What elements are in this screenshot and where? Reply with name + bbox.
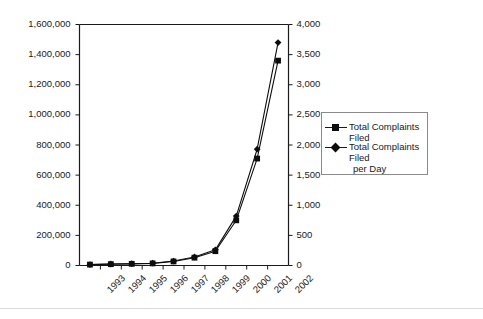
series-1 [87, 58, 281, 268]
chart-legend: Total Complaints Filed Total Complaints … [321, 112, 428, 175]
legend-square-marker-icon [325, 122, 347, 133]
legend-item-label: Total Complaints Filed [347, 121, 426, 143]
right-axis-tick-label: 3,500 [297, 49, 321, 59]
legend-item-total-complaints-filed: Total Complaints Filed [325, 121, 426, 143]
right-axis-tick-label: 1,000 [297, 200, 321, 210]
right-axis-tick-label: 0 [297, 260, 302, 270]
legend-item-label: Total Complaints Filedper Day [347, 141, 426, 174]
series-line [90, 43, 278, 265]
series-line [90, 61, 278, 265]
legend-diamond-marker-icon [325, 142, 347, 153]
right-axis-tick-label: 500 [297, 230, 313, 240]
right-axis-tick-label: 2,500 [297, 109, 321, 119]
right-axis-tick-label: 1,500 [297, 170, 321, 180]
chart-figure: 0200,000400,000600,000800,0001,000,0001,… [0, 0, 483, 319]
left-axis-tick-label: 400,000 [0, 200, 71, 210]
left-axis-tick-label: 800,000 [0, 140, 71, 150]
right-axis-tick-label: 2,000 [297, 140, 321, 150]
right-axis-tick-label: 3,000 [297, 79, 321, 89]
legend-item-label-line1: Total Complaints Filed [349, 141, 419, 163]
series-2 [87, 39, 282, 268]
left-axis-tick-label: 0 [0, 260, 71, 270]
right-axis-tick-label: 4,000 [297, 19, 321, 29]
left-axis-tick-label: 600,000 [0, 170, 71, 180]
left-axis-tick-label: 1,000,000 [0, 109, 71, 119]
bottom-divider [0, 308, 483, 309]
left-axis-tick-label: 1,600,000 [0, 19, 71, 29]
legend-item-label-line2: per Day [349, 163, 426, 174]
left-axis-tick-label: 1,200,000 [0, 79, 71, 89]
data-point-square [275, 58, 281, 64]
data-point-diamond [275, 39, 282, 46]
left-axis-tick-label: 200,000 [0, 230, 71, 240]
left-axis-tick-label: 1,400,000 [0, 49, 71, 59]
legend-item-total-complaints-filed-per-day: Total Complaints Filedper Day [325, 141, 426, 174]
